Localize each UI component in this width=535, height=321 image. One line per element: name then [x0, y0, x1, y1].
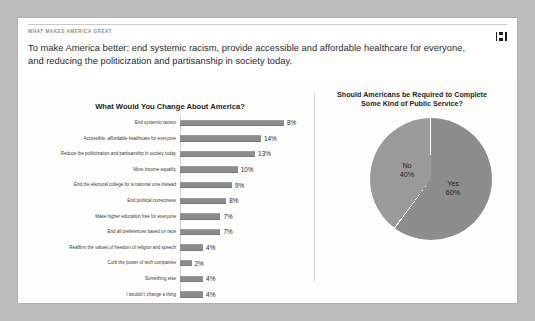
pie-chart-panel: Should Americans be Required to Complete… — [318, 81, 507, 303]
bar-category-label: End political correctness — [28, 198, 180, 203]
pie-slice-label-yes: Yes 60% — [438, 180, 468, 197]
bar-value-label: 10% — [241, 166, 254, 173]
bar-category-label: Reduce the politicization and partisansh… — [28, 151, 180, 156]
header-divider — [28, 24, 507, 25]
pie-chart-graphic: No 40% Yes 60% — [370, 118, 492, 240]
bar-row: End all preferences based on race7% — [28, 224, 312, 240]
bar-row: End political correctness8% — [28, 193, 312, 209]
bar-row: I wouldn't change a thing4% — [28, 287, 312, 303]
bar-row: End systemic racism8% — [28, 115, 312, 131]
bar-value-label: 14% — [264, 135, 277, 142]
bar-row: Reaffirm the values of freedom of religi… — [28, 240, 312, 256]
bar-chart-series: End systemic racism8%Accessible, afforda… — [28, 115, 312, 302]
publisher-logo-icon — [494, 31, 508, 42]
bar-value-label: 4% — [206, 275, 215, 282]
bar-track: 2% — [180, 255, 312, 271]
bar-value-label: 7% — [223, 228, 232, 235]
bar-track: 14% — [180, 131, 312, 147]
bar-track: 4% — [180, 271, 312, 287]
report-page: WHAT MAKES AMERICA GREAT To make America… — [18, 18, 517, 303]
bar-fill — [180, 229, 220, 235]
bar-row: Accessible, affordable healthcare for ev… — [28, 131, 312, 147]
bar-fill — [180, 291, 203, 297]
bar-category-label: Accessible, affordable healthcare for ev… — [28, 136, 180, 141]
bar-fill — [180, 244, 203, 250]
bar-value-label: 4% — [206, 291, 215, 298]
bar-category-label: Reaffirm the values of freedom of religi… — [28, 245, 180, 250]
bar-row: More income equality10% — [28, 162, 312, 178]
page-header: WHAT MAKES AMERICA GREAT To make America… — [18, 18, 517, 82]
bar-category-label: More income equality — [28, 167, 180, 172]
pie-disc — [370, 118, 492, 240]
eyebrow-label: WHAT MAKES AMERICA GREAT — [28, 29, 112, 34]
bar-value-label: 8% — [287, 119, 296, 126]
bar-value-label: 4% — [206, 244, 215, 251]
bar-value-label: 9% — [235, 182, 244, 189]
bar-fill — [180, 276, 203, 282]
slide-canvas: WHAT MAKES AMERICA GREAT To make America… — [0, 0, 535, 321]
bar-category-label: Curb the power of tech companies — [28, 260, 180, 265]
bar-row: Something else4% — [28, 271, 312, 287]
bar-row: Reduce the politicization and partisansh… — [28, 146, 312, 162]
pie-slice-value-yes: 60% — [438, 189, 468, 198]
bar-category-label: Make higher education free for everyone — [28, 214, 180, 219]
bar-track: 9% — [180, 177, 312, 193]
bar-row: Curb the power of tech companies2% — [28, 255, 312, 271]
logo-bar — [499, 35, 503, 37]
bar-track: 8% — [180, 115, 312, 131]
bar-row: Make higher education free for everyone7… — [28, 209, 312, 225]
bar-category-label: End systemic racism — [28, 120, 180, 125]
panel-divider — [314, 93, 315, 281]
bar-fill — [180, 213, 220, 219]
page-body: What Would You Change About America? End… — [18, 81, 517, 303]
bar-track: 8% — [180, 193, 312, 209]
bar-value-label: 2% — [195, 260, 204, 267]
bar-category-label: I wouldn't change a thing — [28, 292, 180, 297]
bar-value-label: 7% — [223, 213, 232, 220]
bar-fill — [180, 260, 192, 266]
bar-row: End the electoral college for a national… — [28, 177, 312, 193]
bar-chart-title: What Would You Change About America? — [28, 102, 312, 111]
bar-fill — [180, 120, 284, 126]
bar-track: 4% — [180, 287, 312, 303]
bar-chart-panel: What Would You Change About America? End… — [28, 81, 312, 303]
bar-value-label: 13% — [258, 150, 271, 157]
pie-slice-label-no: No 40% — [392, 162, 422, 179]
bar-track: 7% — [180, 209, 312, 225]
bar-fill — [180, 135, 261, 141]
pie-slice-value-no: 40% — [392, 171, 422, 180]
bar-value-label: 8% — [229, 197, 238, 204]
bar-track: 10% — [180, 162, 312, 178]
page-title: To make America better: end systemic rac… — [28, 41, 480, 67]
bar-category-label: Something else — [28, 276, 180, 281]
bar-fill — [180, 166, 238, 172]
bar-category-label: End the electoral college for a national… — [28, 182, 180, 187]
bar-fill — [180, 151, 255, 157]
pie-chart-title: Should Americans be Required to Complete… — [332, 90, 492, 108]
bar-category-label: End all preferences based on race — [28, 229, 180, 234]
bar-track: 13% — [180, 146, 312, 162]
bar-track: 4% — [180, 240, 312, 256]
bar-fill — [180, 182, 232, 188]
bar-track: 7% — [180, 224, 312, 240]
bar-fill — [180, 198, 226, 204]
logo-mark — [496, 32, 507, 42]
